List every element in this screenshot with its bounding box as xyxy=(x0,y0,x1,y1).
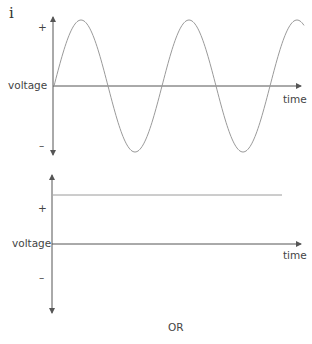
ac-plus-label: + xyxy=(38,22,47,33)
dc-x-axis-label: time xyxy=(283,250,307,261)
dc-y-axis-label: voltage xyxy=(12,238,51,249)
ac-minus-label: – xyxy=(39,140,44,151)
dc-graph xyxy=(52,175,301,313)
ac-y-axis-label: voltage xyxy=(8,80,47,91)
dc-minus-label: – xyxy=(39,272,44,283)
voltage-time-diagrams xyxy=(0,0,312,344)
or-separator: OR xyxy=(168,322,184,333)
ac-graph xyxy=(53,17,304,155)
dc-plus-label: + xyxy=(38,203,47,214)
ac-x-axis-label: time xyxy=(283,94,307,105)
